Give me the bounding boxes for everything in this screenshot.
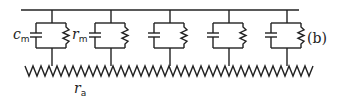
cm-label: cm <box>13 27 30 44</box>
ra-label: ra <box>74 81 86 98</box>
membrane-resistor <box>63 23 69 48</box>
cable-circuit-diagram <box>0 0 341 101</box>
membrane-resistor <box>181 23 187 48</box>
axial-resistor-zigzag <box>25 66 313 76</box>
figure-label: (b) <box>307 31 327 45</box>
membrane-resistor <box>298 23 304 48</box>
rm-label: rm <box>72 27 87 44</box>
membrane-resistor <box>240 23 246 48</box>
membrane-resistor <box>122 23 128 48</box>
